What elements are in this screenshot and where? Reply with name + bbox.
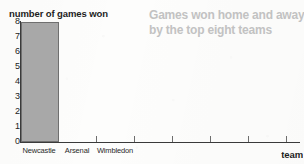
x-axis-line bbox=[20, 142, 300, 143]
x-tick-mark bbox=[172, 136, 173, 142]
x-axis-label: team bbox=[281, 149, 303, 160]
chart-figure: number of games won Games won home and a… bbox=[0, 0, 304, 164]
x-tick-mark bbox=[210, 136, 211, 142]
x-tick-mark bbox=[58, 136, 59, 142]
x-category-label: Wimbledon bbox=[96, 146, 134, 155]
x-category-label: Newcastle bbox=[20, 146, 58, 155]
x-tick-mark bbox=[96, 136, 97, 142]
x-tick-mark bbox=[286, 136, 287, 142]
bar-newcastle bbox=[21, 22, 59, 142]
x-tick-mark bbox=[248, 136, 249, 142]
x-category-label: Arsenal bbox=[58, 146, 96, 155]
x-tick-mark bbox=[134, 136, 135, 142]
